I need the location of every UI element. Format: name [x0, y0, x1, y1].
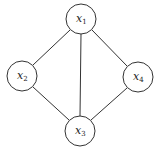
- edge-x4-x3: [91, 88, 127, 120]
- edge-x1-x2: [33, 30, 70, 65]
- node-x4: x4: [123, 62, 153, 92]
- node-x2: x2: [7, 61, 37, 91]
- node-x1: x1: [66, 4, 96, 34]
- node-x3: x3: [65, 116, 95, 146]
- edge-x2-x3: [33, 87, 69, 120]
- graph-diagram: x1 x2 x3 x4: [0, 0, 155, 152]
- edges: [33, 30, 127, 120]
- edge-x1-x3: [80, 34, 81, 116]
- edge-x1-x4: [92, 30, 127, 66]
